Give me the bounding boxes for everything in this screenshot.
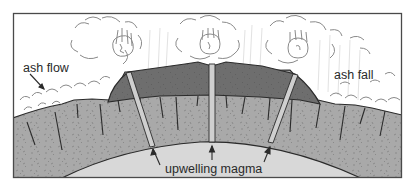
upwelling-magma-label: upwelling magma <box>165 162 262 176</box>
ash-flow-label: ash flow <box>23 61 70 75</box>
center-conduit <box>209 64 215 142</box>
ash-fall-label: ash fall <box>334 68 374 82</box>
volcano-cross-section-diagram: ash flow ash fall upwelling magma <box>0 0 412 192</box>
